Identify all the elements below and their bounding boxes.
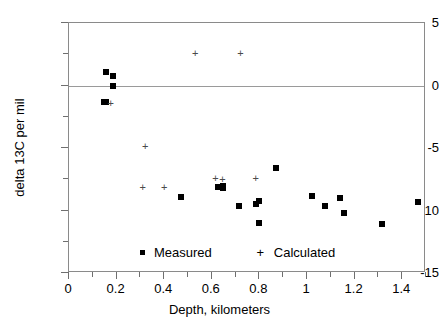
scatter-chart-figure: 50-5-10-15 00.20.40.60.811.21.4 ++++++++… — [0, 0, 439, 328]
chart-legend: Measured + Calculated — [140, 245, 335, 260]
x-axis-minor-tick — [330, 272, 331, 277]
data-point-calculated: + — [138, 182, 147, 191]
data-point-measured — [103, 69, 109, 75]
x-axis-minor-tick — [425, 272, 426, 277]
plot-area: +++++++++ — [68, 22, 425, 272]
square-marker-icon — [140, 250, 145, 255]
x-axis-tick-label: 0.6 — [202, 281, 220, 296]
data-point-calculated: + — [141, 141, 150, 150]
x-axis-tick-label: 1.2 — [345, 281, 363, 296]
x-axis-tick-label: 0.2 — [107, 281, 125, 296]
x-axis-tick — [401, 272, 402, 279]
x-axis-tick-label: 1 — [302, 281, 309, 296]
data-point-calculated: + — [218, 175, 227, 184]
data-point-measured — [220, 185, 226, 191]
x-axis-tick — [68, 272, 69, 279]
data-point-measured — [341, 210, 347, 216]
x-axis-tick — [258, 272, 259, 279]
x-axis-tick — [211, 272, 212, 279]
x-axis-minor-tick — [92, 272, 93, 277]
legend-label-calculated: Calculated — [274, 245, 335, 260]
data-point-measured — [236, 203, 242, 209]
y-axis-tick — [61, 272, 68, 273]
y-axis-tick — [61, 22, 68, 23]
x-axis-title: Depth, kilometers — [0, 302, 439, 317]
data-point-calculated: + — [236, 49, 245, 58]
data-point-measured — [273, 165, 279, 171]
x-axis-tick — [116, 272, 117, 279]
y-axis-tick — [61, 210, 68, 211]
plus-marker-icon: + — [256, 245, 265, 260]
data-point-measured — [337, 195, 343, 201]
x-axis-tick-label: 0.8 — [249, 281, 267, 296]
legend-label-measured: Measured — [154, 245, 212, 260]
x-axis-tick — [163, 272, 164, 279]
x-axis-minor-tick — [282, 272, 283, 277]
zero-reference-line — [69, 86, 424, 87]
legend-item-calculated: + Calculated — [256, 245, 335, 260]
x-axis-tick-label: 0 — [64, 281, 71, 296]
y-axis-tick — [61, 85, 68, 86]
data-point-measured — [110, 73, 116, 79]
x-axis-minor-tick — [235, 272, 236, 277]
x-axis-minor-tick — [139, 272, 140, 277]
x-axis-minor-tick — [377, 272, 378, 277]
data-point-calculated: + — [106, 99, 115, 108]
y-axis-title: delta 13C per mil — [12, 68, 27, 228]
data-point-calculated: + — [191, 49, 200, 58]
data-point-measured — [415, 199, 421, 205]
x-axis-minor-tick — [187, 272, 188, 277]
x-axis-tick — [354, 272, 355, 279]
data-point-calculated: + — [160, 182, 169, 191]
x-axis-tick-label: 1.4 — [392, 281, 410, 296]
data-point-calculated: + — [251, 174, 260, 183]
x-axis-tick — [306, 272, 307, 279]
data-point-measured — [110, 83, 116, 89]
data-point-measured — [309, 193, 315, 199]
data-point-measured — [322, 203, 328, 209]
data-point-measured — [379, 221, 385, 227]
data-point-measured — [178, 194, 184, 200]
legend-item-measured: Measured — [140, 245, 212, 260]
data-point-measured — [256, 220, 262, 226]
data-point-measured — [256, 198, 262, 204]
y-axis-tick — [61, 147, 68, 148]
x-axis-tick-label: 0.4 — [154, 281, 172, 296]
